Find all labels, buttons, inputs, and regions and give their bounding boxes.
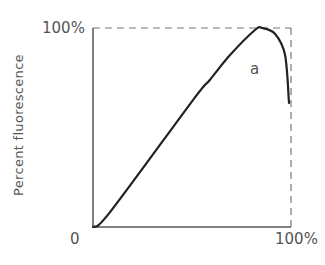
fluorescence-curve: [93, 27, 289, 227]
plot-area: [0, 0, 325, 265]
